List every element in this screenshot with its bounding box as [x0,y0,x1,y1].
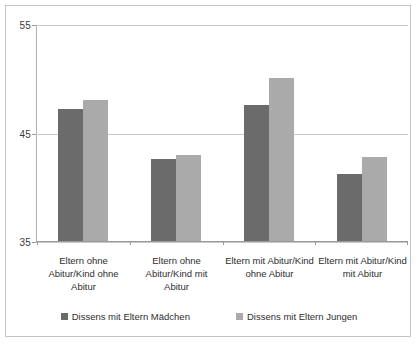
legend-swatch-icon [61,313,68,320]
legend-label: Dissens mit Eltern Jungen [247,311,357,322]
plot-area: 354555 [36,25,408,242]
x-axis-category-label: Eltern ohneAbitur/Kind ohneAbitur [37,247,130,293]
legend-swatch-icon [236,313,243,320]
x-tick-mark [223,241,224,245]
x-tick-mark [407,241,408,245]
legend-item[interactable]: Dissens mit Eltern Mädchen [61,311,190,322]
bar-group [223,25,316,241]
x-axis-category-label: Eltern ohneAbitur/Kind mitAbitur [130,247,223,293]
x-axis-category-line: Eltern mit Abitur/Kind [316,254,409,267]
x-axis-category-line: Eltern ohne [130,254,223,267]
y-tick-label: 45 [19,128,31,139]
x-tick-mark [37,241,38,245]
y-tick-mark [32,25,36,26]
bar-group [37,25,130,241]
bar[interactable] [337,174,362,241]
x-axis-category-line: Abitur/Kind mit [130,267,223,280]
x-axis-category-line: mit Abitur [316,267,409,280]
y-tick-label: 55 [19,20,31,31]
x-axis-labels: Eltern ohneAbitur/Kind ohneAbiturEltern … [37,247,409,293]
bar-group [130,25,223,241]
bar[interactable] [362,157,387,241]
x-tick-mark [130,241,131,245]
x-axis-category-label: Eltern mit Abitur/Kindohne Abitur [223,247,316,293]
bar[interactable] [58,109,83,241]
bar[interactable] [269,78,294,241]
bar[interactable] [151,159,176,241]
x-axis-category-line: Abitur/Kind ohne [37,267,130,280]
y-tick-label: 35 [19,237,31,248]
x-axis-category-line: Abitur [37,280,130,293]
x-axis-category-line: Eltern ohne [37,254,130,267]
legend-label: Dissens mit Eltern Mädchen [72,311,190,322]
bar[interactable] [244,105,269,241]
x-axis-category-line: ohne Abitur [223,267,316,280]
bar[interactable] [176,155,201,241]
y-tick-mark [32,134,36,135]
bars-layer [37,25,408,241]
x-axis-category-label: Eltern mit Abitur/Kindmit Abitur [316,247,409,293]
x-axis-category-line: Eltern mit Abitur/Kind [223,254,316,267]
chart-frame: 354555 Eltern ohneAbitur/Kind ohneAbitur… [5,5,411,337]
x-axis-category-line: Abitur [130,280,223,293]
bar-group [315,25,408,241]
legend-item[interactable]: Dissens mit Eltern Jungen [236,311,357,322]
x-tick-mark [315,241,316,245]
chart-legend: Dissens mit Eltern MädchenDissens mit El… [6,311,412,322]
y-tick-mark [32,242,36,243]
bar[interactable] [83,100,108,241]
